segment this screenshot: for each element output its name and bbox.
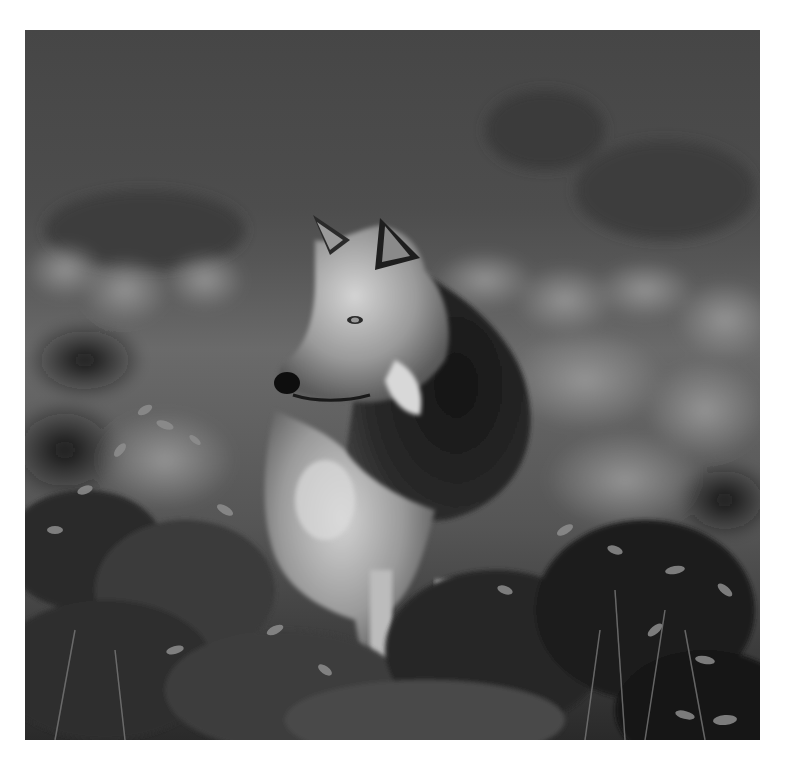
wolf-photograph (25, 30, 760, 740)
wolf-chest (295, 460, 355, 540)
wolf-nose (274, 372, 300, 394)
wolf-photo-svg (25, 30, 760, 740)
